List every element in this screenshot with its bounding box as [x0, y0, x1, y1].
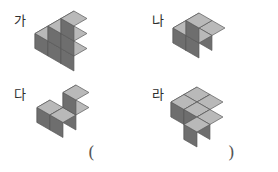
- cube-stage-ra: [170, 86, 224, 148]
- figure-label-ga: 가: [14, 14, 26, 27]
- figure-label-ra: 라: [152, 88, 164, 101]
- worksheet-page: 가 나 다 라 ( ): [0, 0, 278, 172]
- answer-close-paren: ): [228, 144, 235, 161]
- figure-label-da: 다: [14, 88, 26, 101]
- cube-stage-na: [172, 12, 226, 59]
- answer-row: ( ): [0, 140, 278, 166]
- answer-open-paren: (: [88, 144, 95, 161]
- cube-stage-ga: [34, 10, 88, 72]
- cube-stage-da: [36, 84, 90, 139]
- figure-label-na: 나: [152, 14, 164, 27]
